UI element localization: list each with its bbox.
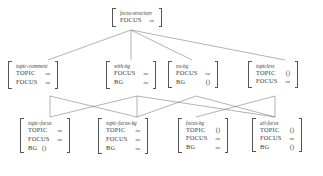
feature-value: ne xyxy=(208,135,221,143)
bracket-left-icon xyxy=(168,61,172,88)
bracket-left-icon xyxy=(252,118,256,152)
feature-row: TOPIC () xyxy=(186,126,220,134)
bracket-right-icon xyxy=(299,118,303,152)
feature-row: BG () xyxy=(176,78,210,86)
feature-value: ne xyxy=(38,70,51,78)
feature-row: TOPIC ne xyxy=(16,69,50,78)
feature-attribute: FOCUS xyxy=(114,69,136,77)
bracket-left-icon xyxy=(20,118,24,153)
feature-attribute: FOCUS xyxy=(260,134,282,142)
feature-row: FOCUS ne xyxy=(120,16,154,25)
bracket-left-icon xyxy=(248,61,252,88)
edge-root-topicless xyxy=(131,30,285,60)
feature-attribute: BG xyxy=(186,143,195,151)
feature-value: ne xyxy=(142,17,155,25)
feature-value: ne xyxy=(128,145,141,153)
feature-attribute: BG xyxy=(176,78,185,86)
edge-topicless-focus-bg xyxy=(196,96,275,117)
node-topicless: topicless TOPIC () FOCUS ne xyxy=(248,61,298,88)
bracket-right-icon xyxy=(159,8,163,27)
bracket-right-icon xyxy=(153,61,157,89)
feature-value: ne xyxy=(208,144,221,152)
feature-value: ne xyxy=(136,70,149,78)
feature-row: BG ne xyxy=(186,143,220,152)
node-focus-bg: focus-bg TOPIC () FOCUS ne BG ne xyxy=(178,118,228,153)
feature-value: () xyxy=(198,78,210,86)
feature-row: BG () xyxy=(260,143,294,151)
feature-attribute: BG xyxy=(28,144,37,151)
feature-row: FOCUS ne xyxy=(186,134,220,143)
bracket-right-icon xyxy=(215,61,219,88)
feature-attribute: FOCUS xyxy=(120,16,142,24)
edge-no-bg-topic-focus-bg xyxy=(137,96,196,117)
bracket-right-icon xyxy=(67,118,71,153)
feature-attribute: BG xyxy=(114,78,123,86)
feature-row: FOCUS ne xyxy=(256,77,290,86)
feature-row: TOPIC () xyxy=(260,126,294,134)
feature-value: ne xyxy=(128,127,141,135)
node-topic-focus-bg: topic-focus-bg TOPIC ne FOCUS ne BG ne xyxy=(98,118,148,154)
feature-attribute: TOPIC xyxy=(186,126,205,134)
edge-with-bg-topic-focus xyxy=(50,96,137,117)
feature-row: FOCUS ne xyxy=(114,69,148,78)
feature-row: BG () xyxy=(28,144,62,152)
node-no-bg: no-bg FOCUS ne BG () xyxy=(168,61,218,88)
feature-value: ne xyxy=(50,136,63,144)
feature-attribute: FOCUS xyxy=(16,78,38,86)
feature-row: TOPIC ne xyxy=(106,126,140,135)
bracket-left-icon xyxy=(106,61,110,89)
feature-row: FOCUS ne xyxy=(176,69,210,78)
feature-value: () xyxy=(278,69,290,77)
feature-row: BG ne xyxy=(106,144,140,153)
feature-attribute: FOCUS xyxy=(176,69,198,77)
feature-attribute: FOCUS xyxy=(186,134,208,142)
bracket-left-icon xyxy=(112,8,116,27)
node-with-bg: with-bg FOCUS ne BG ne xyxy=(106,61,156,89)
feature-value: ne xyxy=(198,70,211,78)
feature-attribute: FOCUS xyxy=(106,135,128,143)
feature-attribute: BG xyxy=(106,144,115,152)
edge-topic-comment-topic-focus-bg xyxy=(50,96,137,117)
feature-attribute: TOPIC xyxy=(260,126,279,134)
bracket-right-icon xyxy=(145,118,149,154)
node-topic-comment: topic-comment TOPIC ne FOCUS ne xyxy=(8,61,58,89)
bracket-left-icon xyxy=(178,118,182,153)
edge-root-topic-comment xyxy=(48,30,131,60)
feature-value: ne xyxy=(38,79,51,87)
bracket-right-icon xyxy=(295,61,299,88)
feature-attribute: TOPIC xyxy=(16,69,35,77)
feature-row: TOPIC ne xyxy=(28,126,62,135)
feature-attribute: TOPIC xyxy=(28,126,47,134)
bracket-left-icon xyxy=(8,61,12,89)
bracket-left-icon xyxy=(98,118,102,154)
feature-attribute: TOPIC xyxy=(256,69,275,77)
bracket-right-icon xyxy=(55,61,59,89)
feature-row: TOPIC () xyxy=(256,69,290,77)
feature-row: FOCUS ne xyxy=(16,78,50,87)
feature-attribute: TOPIC xyxy=(106,126,125,134)
node-topic-focus: topic-focus TOPIC ne FOCUS ne BG () xyxy=(20,118,70,153)
feature-row: FOCUS ne xyxy=(28,135,62,144)
feature-value: ne xyxy=(136,79,149,87)
edge-with-bg-all-focus xyxy=(137,96,275,117)
feature-attribute: FOCUS xyxy=(256,77,278,85)
feature-value: ne xyxy=(128,136,141,144)
node-focus-structure: focus-structure FOCUS ne xyxy=(112,8,162,27)
type-hierarchy-diagram: focus-structure FOCUS ne topic-comment T… xyxy=(0,0,323,176)
feature-value: ne xyxy=(278,78,291,86)
feature-attribute: BG xyxy=(260,143,269,151)
edge-no-bg-all-focus xyxy=(196,96,275,117)
feature-attribute: FOCUS xyxy=(28,135,50,143)
feature-value: () xyxy=(282,126,294,134)
feature-value: () xyxy=(282,143,294,151)
feature-row: BG ne xyxy=(114,78,148,87)
bracket-right-icon xyxy=(225,118,229,153)
feature-value: () xyxy=(208,126,220,134)
node-all-focus: all-focus TOPIC () FOCUS ne BG () xyxy=(252,118,302,152)
feature-row: FOCUS ne xyxy=(260,134,294,143)
feature-row: FOCUS ne xyxy=(106,135,140,144)
edge-root-no-bg xyxy=(131,30,192,60)
feature-value: ne xyxy=(50,127,63,135)
feature-value: () xyxy=(39,144,46,151)
feature-value: ne xyxy=(282,135,295,143)
